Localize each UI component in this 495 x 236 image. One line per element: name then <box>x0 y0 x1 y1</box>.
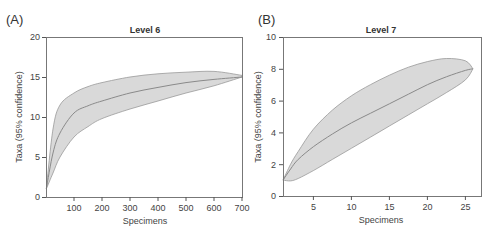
panel-b-ytick: 8 <box>271 64 276 74</box>
panel-a-label: (A) <box>6 12 23 27</box>
panel-b-ytick: 4 <box>271 128 276 138</box>
panel-b-ytick: 0 <box>271 191 276 201</box>
panel-a-ytick: 5 <box>35 152 40 162</box>
panel-a-y-axis-label: Taxa (95% confidence) <box>14 71 24 163</box>
panel-b-ytick: 6 <box>271 96 276 106</box>
panel-a-ytick: 10 <box>30 112 40 122</box>
panel-b-ytick: 10 <box>266 32 276 42</box>
panel-a-confidence-band <box>46 71 242 189</box>
panel-b-x-axis: 5 10 15 20 25 <box>311 196 471 212</box>
panel-a-xtick: 700 <box>234 203 249 213</box>
panel-a-xtick: 500 <box>178 203 193 213</box>
panel-a: (A) Level 6 0 5 10 15 20 Taxa (95% confi… <box>6 12 250 226</box>
panel-a-x-axis-label: Specimens <box>123 216 168 226</box>
panel-b-confidence-band <box>283 58 473 180</box>
panel-b-xtick: 10 <box>346 202 356 212</box>
panel-b-y-axis-label: Taxa (95% confidence) <box>253 71 263 163</box>
figure: (A) Level 6 0 5 10 15 20 Taxa (95% confi… <box>0 0 495 236</box>
panel-a-x-axis: 100 200 300 400 500 600 700 <box>66 197 249 213</box>
panel-a-title: Level 6 <box>130 25 161 35</box>
panel-a-xtick: 300 <box>122 203 137 213</box>
panel-b-xtick: 20 <box>422 202 432 212</box>
panel-b: (B) Level 7 0 2 4 6 8 10 Taxa (95% confi… <box>253 12 482 225</box>
panel-b-xtick: 25 <box>460 202 470 212</box>
panel-a-xtick: 600 <box>206 203 221 213</box>
panel-b-xtick: 5 <box>311 202 316 212</box>
panel-a-xtick: 100 <box>66 203 81 213</box>
panel-b-x-axis-label: Specimens <box>359 215 404 225</box>
panel-b-xtick: 15 <box>384 202 394 212</box>
panel-a-xtick: 400 <box>150 203 165 213</box>
panel-b-title: Level 7 <box>366 25 397 35</box>
panel-b-y-axis: 0 2 4 6 8 10 <box>266 32 283 201</box>
panel-a-xtick: 200 <box>94 203 109 213</box>
panel-a-ytick: 20 <box>30 32 40 42</box>
panel-a-ytick: 15 <box>30 72 40 82</box>
panel-b-label: (B) <box>258 12 275 27</box>
panel-b-ytick: 2 <box>271 160 276 170</box>
panel-a-ytick: 0 <box>35 192 40 202</box>
panel-a-y-axis: 0 5 10 15 20 <box>30 32 46 202</box>
